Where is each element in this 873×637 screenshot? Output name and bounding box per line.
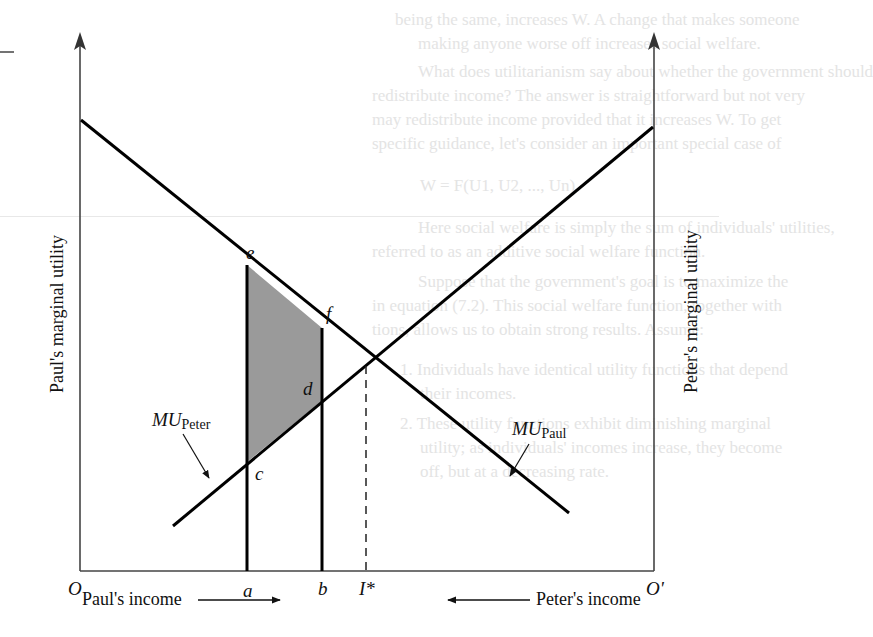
mu-paul-pointer-icon: [510, 444, 529, 476]
mu-peter-main: MU: [152, 409, 182, 430]
mu-peter-line: [173, 127, 653, 526]
tick-istar-label: I*: [359, 578, 375, 600]
peter-mu-axis-title: Peter's marginal utility: [681, 230, 702, 393]
mu-paul-sub: Paul: [542, 426, 567, 441]
mu-peter-sub: Peter: [182, 417, 211, 432]
paul-income-caption: Paul's income: [82, 589, 182, 610]
mu-paul-label: MUPaul: [512, 418, 566, 442]
axes: [74, 32, 660, 571]
paul-mu-axis-title: Paul's marginal utility: [47, 235, 68, 393]
peter-income-caption: Peter's income: [536, 589, 641, 610]
origin-o-label: O: [68, 578, 82, 600]
mu-paul-main: MU: [512, 418, 542, 439]
mu-peter-pointer-icon: [183, 434, 209, 478]
point-f-label: f: [326, 303, 331, 325]
tick-b-label: b: [318, 578, 328, 600]
mu-peter-label: MUPeter: [152, 409, 210, 433]
point-d-label: d: [303, 378, 313, 400]
mu-paul-line: [81, 120, 569, 513]
point-e-label: e: [246, 242, 254, 264]
origin-o-prime-label: O': [646, 578, 664, 600]
tick-a-label: a: [243, 580, 253, 602]
point-c-label: c: [255, 463, 263, 485]
